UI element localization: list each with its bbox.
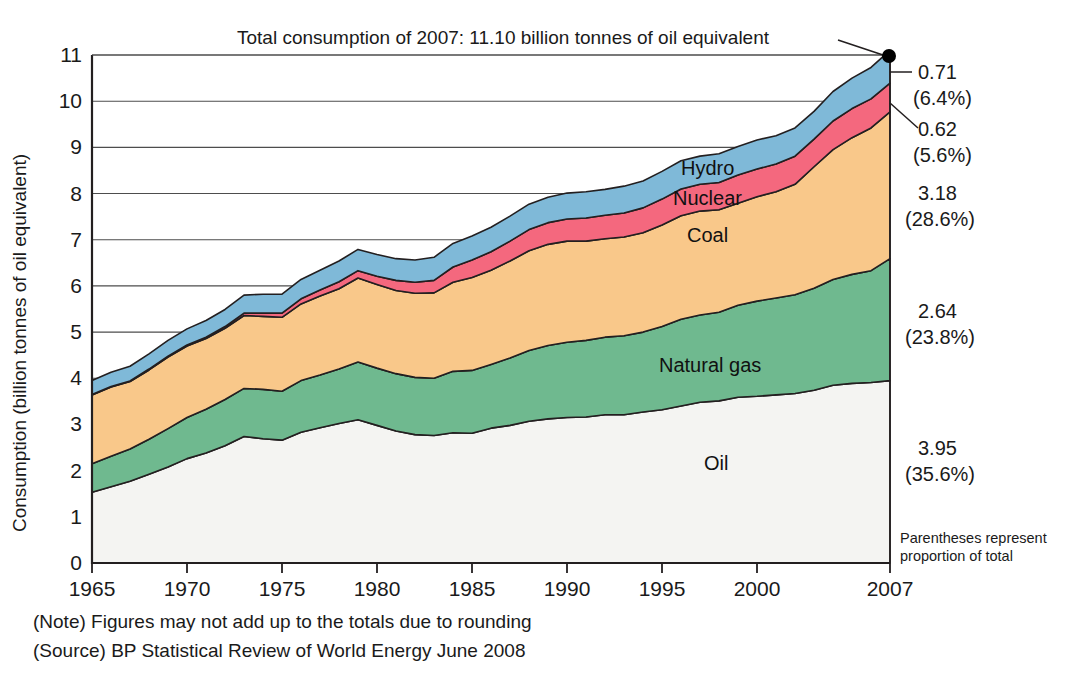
- y-tick-6: 6: [70, 274, 82, 297]
- series-label-coal: Coal: [687, 224, 728, 246]
- title-leader-line: [838, 40, 886, 56]
- percent-label-nuclear: (5.6%): [913, 144, 972, 166]
- x-tick-1980: 1980: [354, 577, 401, 600]
- series-label-oil: Oil: [704, 452, 728, 474]
- percent-label-natural-gas: (23.8%): [905, 326, 975, 348]
- x-tick-1965: 1965: [69, 577, 116, 600]
- y-axis-title: Consumption (billion tonnes of oil equiv…: [9, 154, 30, 532]
- percent-label-coal: (28.6%): [905, 208, 975, 230]
- figure-source: (Source) BP Statistical Review of World …: [33, 640, 525, 661]
- y-axis-tick-labels: 01234567891011: [59, 43, 83, 574]
- value-label-hydro: 0.71: [918, 61, 957, 83]
- parentheses-note-line2: proportion of total: [900, 548, 1013, 564]
- x-tick-1985: 1985: [449, 577, 496, 600]
- figure-note: (Note) Figures may not add up to the tot…: [33, 611, 532, 632]
- x-tick-1995: 1995: [639, 577, 686, 600]
- series-label-nuclear: Nuclear: [673, 187, 742, 209]
- value-label-coal: 3.18: [918, 182, 957, 204]
- x-tick-1990: 1990: [544, 577, 591, 600]
- y-tick-0: 0: [70, 551, 82, 574]
- y-tick-8: 8: [70, 182, 82, 205]
- y-tick-5: 5: [70, 320, 82, 343]
- value-label-nuclear: 0.62: [918, 118, 957, 140]
- x-tick-1970: 1970: [164, 577, 211, 600]
- x-tick-1975: 1975: [259, 577, 306, 600]
- y-tick-7: 7: [70, 228, 82, 251]
- y-tick-10: 10: [59, 89, 82, 112]
- percent-label-oil: (35.6%): [905, 463, 975, 485]
- value-label-natural-gas: 2.64: [918, 300, 957, 322]
- series-label-natural-gas: Natural gas: [659, 354, 761, 376]
- y-tick-3: 3: [70, 412, 82, 435]
- chart-title: Total consumption of 2007: 11.10 billion…: [237, 27, 770, 48]
- y-tick-4: 4: [70, 366, 82, 389]
- percent-label-hydro: (6.4%): [913, 87, 972, 109]
- total-endpoint-marker: [882, 49, 896, 63]
- y-tick-11: 11: [60, 43, 82, 66]
- series-label-hydro: Hydro: [681, 157, 734, 179]
- y-tick-2: 2: [70, 459, 82, 482]
- y-tick-1: 1: [70, 505, 82, 528]
- chart-svg: 01234567891011 1965197019751980198519901…: [0, 0, 1083, 682]
- chart-figure: 01234567891011 1965197019751980198519901…: [0, 0, 1083, 682]
- y-tick-9: 9: [70, 135, 82, 158]
- parentheses-note-line1: Parentheses represent: [900, 530, 1047, 546]
- x-axis-tick-labels: 196519701975198019851990199520002007: [69, 563, 914, 600]
- value-label-oil: 3.95: [918, 437, 957, 459]
- x-tick-2000: 2000: [734, 577, 781, 600]
- x-tick-2007: 2007: [867, 577, 914, 600]
